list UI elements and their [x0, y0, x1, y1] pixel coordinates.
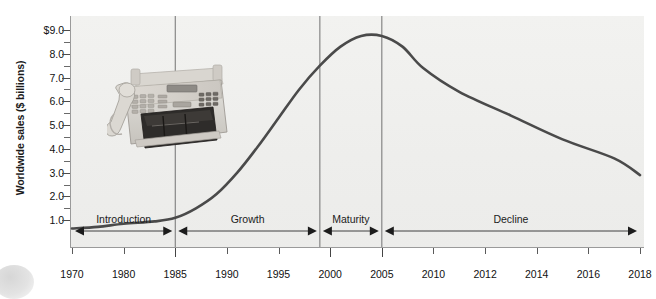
stage-label-introduction: Introduction — [96, 213, 151, 225]
y-tick-mark — [62, 149, 70, 150]
x-tick-mark — [279, 248, 280, 254]
y-tick-label: 5.0 — [12, 119, 64, 131]
y-tick-label: 3.0 — [12, 167, 64, 179]
y-minor-tick-mark — [64, 113, 70, 114]
x-tick-label: 2018 — [610, 268, 656, 280]
y-tick-mark — [62, 78, 70, 79]
x-tick-mark — [124, 248, 125, 254]
x-tick-mark — [640, 248, 641, 254]
y-minor-tick-mark — [64, 137, 70, 138]
y-tick-label: 2.0 — [12, 190, 64, 202]
y-tick-label: 4.0 — [12, 143, 64, 155]
stage-arrow-head — [385, 227, 394, 236]
y-tick-label: 8.0 — [12, 48, 64, 60]
stage-arrow-group — [75, 227, 637, 236]
stage-arrow-head — [628, 227, 637, 236]
y-tick-mark — [62, 54, 70, 55]
y-minor-tick-mark — [64, 42, 70, 43]
y-tick-mark — [62, 125, 70, 126]
x-tick-mark — [330, 248, 331, 257]
y-tick-label: 6.0 — [12, 95, 64, 107]
y-tick-mark — [62, 173, 70, 174]
y-tick-label: 7.0 — [12, 72, 64, 84]
x-tick-mark — [485, 248, 486, 254]
y-tick-label: $9.0 — [12, 24, 64, 36]
stage-label-decline: Decline — [493, 213, 528, 225]
y-minor-tick-mark — [64, 208, 70, 209]
y-tick-mark — [62, 30, 70, 31]
stage-arrow-head — [178, 227, 187, 236]
x-tick-mark — [588, 248, 589, 254]
stage-arrow-head — [323, 227, 332, 236]
stage-arrow-head — [163, 227, 172, 236]
x-tick-mark — [72, 248, 73, 254]
plot-area: $9.08.07.06.05.04.03.02.01.0 19701980198… — [70, 16, 644, 248]
y-minor-tick-mark — [64, 185, 70, 186]
y-minor-tick-mark — [64, 89, 70, 90]
x-tick-mark — [227, 248, 228, 254]
stage-arrow-head — [308, 227, 317, 236]
x-tick-mark — [175, 248, 176, 257]
stage-label-maturity: Maturity — [332, 213, 369, 225]
y-tick-mark — [62, 220, 70, 221]
y-minor-tick-mark — [64, 66, 70, 67]
y-tick-label: 1.0 — [12, 214, 64, 226]
plot-inner: $9.08.07.06.05.04.03.02.01.0 19701980198… — [70, 16, 644, 248]
x-tick-mark — [537, 248, 538, 254]
x-tick-mark — [382, 248, 383, 257]
stage-arrow-head — [370, 227, 379, 236]
fax-machine-photo — [107, 54, 231, 158]
y-tick-mark — [62, 101, 70, 102]
y-tick-mark — [62, 196, 70, 197]
x-tick-mark — [433, 248, 434, 254]
y-minor-tick-mark — [64, 161, 70, 162]
decorative-corner-blob — [0, 265, 34, 299]
stage-label-growth: Growth — [231, 213, 265, 225]
